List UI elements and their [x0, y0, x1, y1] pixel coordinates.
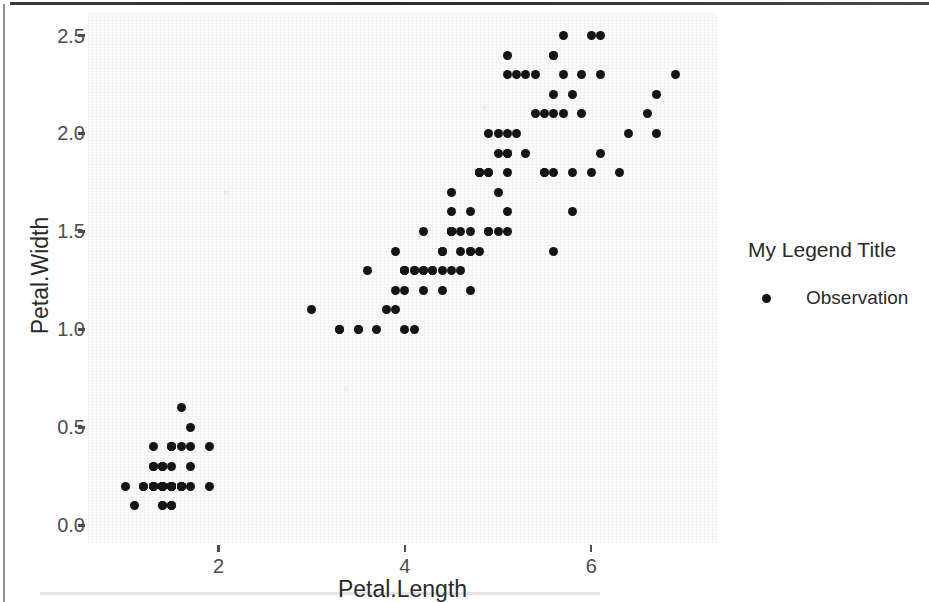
data-point: [400, 286, 409, 295]
data-point: [354, 325, 363, 334]
data-point: [363, 266, 372, 275]
data-point: [205, 442, 214, 451]
data-point: [149, 482, 158, 491]
data-point: [531, 109, 540, 118]
data-point: [494, 227, 503, 236]
data-point: [167, 462, 176, 471]
panel-paper-texture: [88, 12, 717, 543]
data-point: [410, 325, 419, 334]
legend-item-label: Observation: [806, 287, 908, 309]
data-point: [456, 247, 465, 256]
data-point: [568, 168, 577, 177]
data-point: [158, 501, 167, 510]
scatter-plot-figure: 0.00.51.01.52.02.5 246 Petal.Length Peta…: [0, 0, 929, 602]
data-point: [447, 207, 456, 216]
data-point: [531, 70, 540, 79]
data-point: [438, 286, 447, 295]
data-point: [549, 168, 558, 177]
data-point: [158, 482, 167, 491]
data-point: [494, 129, 503, 138]
data-point: [596, 70, 605, 79]
data-point: [466, 227, 475, 236]
x-tick-label: 6: [571, 556, 611, 576]
data-point: [503, 227, 512, 236]
data-point: [484, 227, 493, 236]
data-point: [149, 462, 158, 471]
data-point: [307, 305, 316, 314]
data-point: [577, 109, 586, 118]
y-tick-mark: [78, 34, 85, 37]
data-point: [503, 129, 512, 138]
data-point: [494, 149, 503, 158]
data-point: [559, 70, 568, 79]
data-point: [372, 325, 381, 334]
data-point: [428, 266, 437, 275]
data-point: [475, 168, 484, 177]
data-point: [177, 482, 186, 491]
y-tick-mark: [78, 230, 85, 233]
data-point: [186, 442, 195, 451]
x-axis-title: Petal.Length: [88, 576, 717, 602]
data-point: [652, 129, 661, 138]
legend: My Legend Title Observation: [748, 238, 923, 309]
x-tick-mark: [404, 545, 407, 552]
data-point: [484, 129, 493, 138]
data-point: [521, 149, 530, 158]
data-point: [521, 70, 530, 79]
data-point: [438, 266, 447, 275]
data-point: [419, 266, 428, 275]
data-point: [186, 482, 195, 491]
data-point: [596, 31, 605, 40]
data-point: [121, 482, 130, 491]
data-point: [503, 149, 512, 158]
data-point: [503, 207, 512, 216]
data-point: [400, 266, 409, 275]
data-point: [652, 90, 661, 99]
data-point: [559, 109, 568, 118]
data-point: [447, 266, 456, 275]
y-tick-mark: [78, 426, 85, 429]
data-point: [503, 51, 512, 60]
data-point: [466, 247, 475, 256]
data-point: [559, 31, 568, 40]
data-point: [382, 305, 391, 314]
data-point: [391, 286, 400, 295]
legend-item-observation[interactable]: Observation: [748, 287, 923, 309]
data-point: [568, 207, 577, 216]
y-axis-title: Petal.Width: [27, 176, 54, 376]
data-point: [410, 266, 419, 275]
data-point: [494, 188, 503, 197]
legend-title: My Legend Title: [748, 238, 923, 261]
data-point: [512, 129, 521, 138]
data-point: [503, 70, 512, 79]
data-point: [549, 247, 558, 256]
y-tick-mark: [78, 524, 85, 527]
data-point: [177, 442, 186, 451]
data-point: [587, 31, 596, 40]
data-point: [549, 51, 558, 60]
data-point: [447, 188, 456, 197]
data-point: [466, 207, 475, 216]
circle-marker-icon: [762, 294, 771, 303]
data-point: [335, 325, 344, 334]
data-point: [447, 227, 456, 236]
x-tick-mark: [217, 545, 220, 552]
data-point: [587, 168, 596, 177]
data-point: [540, 109, 549, 118]
data-point: [438, 247, 447, 256]
legend-key-swatch: [748, 294, 784, 303]
data-point: [624, 129, 633, 138]
data-point: [643, 109, 652, 118]
data-point: [419, 286, 428, 295]
y-tick-mark: [78, 132, 85, 135]
data-point: [503, 168, 512, 177]
data-point: [167, 442, 176, 451]
data-point: [186, 423, 195, 432]
data-point: [466, 286, 475, 295]
data-point: [512, 70, 521, 79]
y-tick-mark: [78, 328, 85, 331]
data-point: [186, 462, 195, 471]
data-point: [540, 168, 549, 177]
data-point: [671, 70, 680, 79]
data-point: [596, 149, 605, 158]
